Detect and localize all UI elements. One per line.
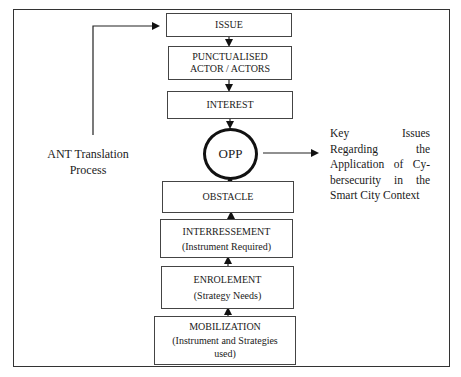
step-punctualised-actors: PUNCTUALISED ACTOR / ACTORS xyxy=(168,46,292,80)
ant-label-line2: Process xyxy=(40,163,136,179)
step-interressement: INTERRESSEMENT (Instrument Required) xyxy=(160,219,293,258)
step-enrolement-label: ENROLEMENT xyxy=(194,272,262,288)
step-obstacle: OBSTACLE xyxy=(162,181,294,213)
ant-label-line1: ANT Translation xyxy=(40,147,136,163)
step-interest-label: INTEREST xyxy=(206,99,253,111)
step-interressement-sub: (Instrument Required) xyxy=(182,239,271,254)
step-punctualised-label2: ACTOR / ACTORS xyxy=(190,63,270,75)
step-interressement-label: INTERRESSEMENT xyxy=(183,224,271,239)
step-issue-label: ISSUE xyxy=(215,19,243,31)
output-note: Key Issues Regarding the Application of … xyxy=(330,126,430,204)
step-mobilization-label: MOBILIZATION xyxy=(189,320,261,334)
step-mobilization: MOBILIZATION (Instrument and Strategies … xyxy=(154,316,296,365)
step-obstacle-label: OBSTACLE xyxy=(203,191,254,203)
step-mobilization-sub: (Instrument and Strategies used) xyxy=(169,334,281,361)
step-issue: ISSUE xyxy=(166,13,292,37)
opp-label: OPP xyxy=(219,146,243,162)
step-enrolement-sub: (Strategy Needs) xyxy=(194,288,261,304)
step-enrolement: ENROLEMENT (Strategy Needs) xyxy=(161,266,294,309)
step-interest: INTEREST xyxy=(167,91,293,119)
step-punctualised-label: PUNCTUALISED xyxy=(192,51,268,63)
ant-translation-process-label: ANT Translation Process xyxy=(40,147,136,178)
opp-node: OPP xyxy=(203,128,258,180)
